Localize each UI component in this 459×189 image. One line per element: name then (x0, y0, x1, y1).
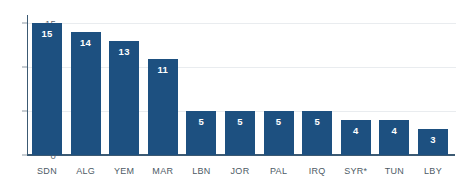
bar-value-label: 14 (71, 37, 101, 48)
bar-value-label: 4 (379, 125, 409, 136)
bars-layer: 15SDN14ALG13YEM11MAR5LBN5JOR5PAL5IRQ4SYR… (28, 6, 456, 155)
bar-value-label: 3 (418, 134, 448, 145)
bar-value-label: 4 (341, 125, 371, 136)
bar[interactable]: 5 (186, 111, 216, 155)
x-axis-category-label: LBY (412, 166, 454, 176)
bar[interactable]: 14 (71, 32, 101, 155)
x-axis-category-label: JOR (219, 166, 261, 176)
bar-group[interactable]: 5JOR (225, 6, 255, 155)
bar-value-label: 13 (109, 46, 139, 57)
bar-value-label: 5 (225, 116, 255, 127)
bar-value-label: 5 (264, 116, 294, 127)
x-axis-category-label: MAR (142, 166, 184, 176)
bar-chart: 051015 15SDN14ALG13YEM11MAR5LBN5JOR5PAL5… (0, 0, 459, 189)
bar-group[interactable]: 5LBN (186, 6, 216, 155)
x-axis-category-label: IRQ (296, 166, 338, 176)
bar-group[interactable]: 5IRQ (302, 6, 332, 155)
bar[interactable]: 4 (341, 120, 371, 155)
bar-value-label: 11 (148, 64, 178, 75)
x-axis-category-label: PAL (258, 166, 300, 176)
bar-value-label: 5 (302, 116, 332, 127)
bar-group[interactable]: 11MAR (148, 6, 178, 155)
bar-group[interactable]: 14ALG (71, 6, 101, 155)
bar[interactable]: 11 (148, 59, 178, 156)
x-axis-category-label: LBN (180, 166, 222, 176)
bar-group[interactable]: 4SYR* (341, 6, 371, 155)
bar-group[interactable]: 3LBY (418, 6, 448, 155)
bar[interactable]: 5 (225, 111, 255, 155)
x-axis-category-label: SYR* (335, 166, 377, 176)
x-axis-category-label: ALG (65, 166, 107, 176)
bar[interactable]: 3 (418, 129, 448, 155)
bar[interactable]: 15 (32, 23, 62, 155)
bar-group[interactable]: 15SDN (32, 6, 62, 155)
bar[interactable]: 13 (109, 41, 139, 155)
x-axis-category-label: SDN (26, 166, 68, 176)
bar-group[interactable]: 4TUN (379, 6, 409, 155)
bar-group[interactable]: 13YEM (109, 6, 139, 155)
x-axis-category-label: TUN (373, 166, 415, 176)
x-axis-category-label: YEM (103, 166, 145, 176)
bar-value-label: 15 (32, 28, 62, 39)
bar-group[interactable]: 5PAL (264, 6, 294, 155)
bar-value-label: 5 (186, 116, 216, 127)
bar[interactable]: 4 (379, 120, 409, 155)
bar[interactable]: 5 (302, 111, 332, 155)
bar[interactable]: 5 (264, 111, 294, 155)
